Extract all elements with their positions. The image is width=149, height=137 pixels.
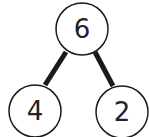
node-part-left: 4 [9, 85, 61, 137]
node-part-right: 2 [96, 86, 148, 137]
node-part-right-label: 2 [114, 97, 131, 127]
node-part-left-label: 4 [27, 96, 44, 126]
node-whole: 6 [56, 3, 108, 55]
connector-right [95, 52, 113, 86]
connector-left [45, 52, 66, 85]
node-whole-label: 6 [74, 14, 91, 44]
number-bond-diagram: 6 4 2 [0, 0, 149, 137]
